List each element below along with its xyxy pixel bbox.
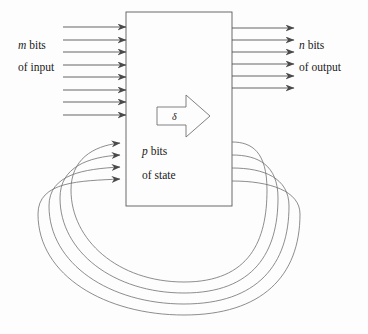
input-bits-text: bits bbox=[26, 39, 46, 51]
output-label-line2: of output bbox=[299, 62, 341, 74]
output-bits-text: bits bbox=[305, 39, 325, 51]
transition-function-label: δ bbox=[172, 112, 177, 122]
state-label-line2: of state bbox=[142, 170, 176, 182]
output-label-line1: n bits bbox=[299, 40, 324, 52]
input-arrow-group bbox=[63, 27, 126, 115]
fsm-block-diagram: m bits of input n bits of output p bits … bbox=[0, 0, 368, 334]
input-label-line2: of input bbox=[18, 62, 54, 74]
state-label-line1: p bits bbox=[142, 146, 167, 158]
input-label-line1: m bits bbox=[18, 40, 46, 52]
output-arrow-group bbox=[232, 28, 294, 88]
state-bits-text: bits bbox=[148, 145, 168, 157]
